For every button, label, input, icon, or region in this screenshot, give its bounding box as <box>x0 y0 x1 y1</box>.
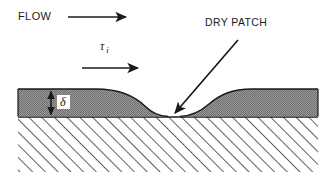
flow-label: FLOW <box>18 10 51 22</box>
liquid-film-right <box>180 89 318 116</box>
substrate-wall <box>18 117 318 172</box>
diagram-canvas <box>0 0 333 177</box>
dry-patch-label: DRY PATCH <box>205 16 267 28</box>
film-thickness-label: δ <box>57 95 70 109</box>
tau-symbol: τ <box>100 39 105 53</box>
liquid-film-left <box>18 89 168 116</box>
tau-subscript: i <box>105 45 109 55</box>
dry-patch-diagram: FLOW DRY PATCH τi δ <box>0 0 333 177</box>
shear-stress-label: τi <box>100 39 109 55</box>
